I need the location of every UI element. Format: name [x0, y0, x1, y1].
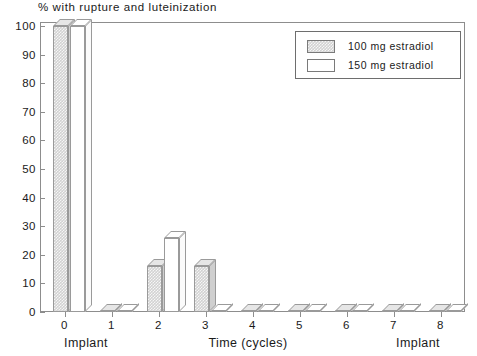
y-tick-label: 30	[22, 220, 36, 232]
x-tick-mark	[441, 312, 442, 317]
x-tick-label: 1	[108, 319, 115, 331]
y-tick-label: 50	[22, 163, 36, 175]
bar-front-face	[164, 238, 179, 312]
bar-150mg-cycle-4	[258, 311, 273, 313]
y-tick-label: 90	[22, 49, 36, 61]
x-tick-mark	[300, 312, 301, 317]
legend-swatch-150mg	[307, 59, 335, 72]
x-tick-mark	[347, 312, 348, 317]
legend-swatch-100mg	[307, 40, 335, 53]
x-tick-mark	[159, 312, 160, 317]
x-tick-label: 8	[437, 319, 444, 331]
x-tick-label: 2	[155, 319, 162, 331]
y-tick-label: 40	[22, 192, 36, 204]
y-tick-label: 70	[22, 106, 36, 118]
legend-entry-1: 150 mg estradiol	[307, 57, 434, 73]
y-tick-mark	[40, 312, 45, 313]
bar-side-face	[179, 231, 186, 312]
x-tick-mark	[206, 312, 207, 317]
bar-150mg-cycle-3	[211, 311, 226, 313]
bar-front-face	[194, 266, 209, 312]
bar-150mg-cycle-8	[446, 311, 461, 313]
y-tick-label: 60	[22, 134, 36, 146]
bar-150mg-cycle-2	[164, 238, 179, 312]
implant-label-left: Implant	[64, 336, 108, 350]
y-axis-tick-labels: 0102030405060708090100	[0, 22, 36, 312]
bar-150mg-cycle-1	[117, 311, 132, 313]
x-tick-mark	[394, 312, 395, 317]
bar-100mg-cycle-0	[53, 26, 68, 312]
bar-100mg-cycle-2	[147, 266, 162, 312]
x-tick-label: 5	[296, 319, 303, 331]
bar-front-face	[147, 266, 162, 312]
x-tick-label: 4	[249, 319, 256, 331]
y-tick-label: 20	[22, 249, 36, 261]
bar-150mg-cycle-5	[305, 311, 320, 313]
y-tick-label: 80	[22, 77, 36, 89]
implant-label-right: Implant	[396, 336, 440, 350]
x-tick-mark	[112, 312, 113, 317]
chart-title: % with rupture and luteinization	[38, 1, 217, 13]
bar-front-face	[53, 26, 68, 312]
x-tick-label: 0	[61, 319, 68, 331]
x-axis-caption: Time (cycles)	[208, 336, 287, 350]
x-tick-label: 3	[202, 319, 209, 331]
bar-side-face	[209, 259, 216, 312]
bar-front-face	[70, 26, 85, 312]
y-tick-label: 10	[22, 277, 36, 289]
x-tick-label: 7	[390, 319, 397, 331]
legend-entry-0: 100 mg estradiol	[307, 38, 434, 54]
x-tick-mark	[253, 312, 254, 317]
bar-150mg-cycle-7	[399, 311, 414, 313]
y-tick-label: 100	[15, 20, 36, 32]
bar-side-face	[85, 19, 92, 312]
bar-150mg-cycle-6	[352, 311, 367, 313]
legend-label-100mg: 100 mg estradiol	[348, 40, 434, 52]
bar-100mg-cycle-3	[194, 266, 209, 312]
x-tick-mark	[65, 312, 66, 317]
legend-label-150mg: 150 mg estradiol	[348, 59, 434, 71]
x-tick-label: 6	[343, 319, 350, 331]
y-tick-label: 0	[29, 306, 36, 318]
chart-figure: % with rupture and luteinization 0102030…	[0, 0, 477, 356]
bar-150mg-cycle-0	[70, 26, 85, 312]
legend-box: 100 mg estradiol 150 mg estradiol	[295, 31, 461, 79]
